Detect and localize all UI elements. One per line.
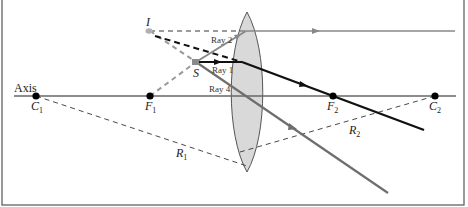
image-label: I <box>145 15 151 29</box>
c2-label: C2 <box>429 99 441 115</box>
r1-label: R1 <box>175 146 187 162</box>
ray4-label: Ray 4 <box>209 84 231 94</box>
ray1-label: Ray 1 <box>212 65 233 75</box>
f1-label: F1 <box>144 99 156 115</box>
r2-label: R2 <box>348 123 360 139</box>
lens-diagram: Axis C1 F1 F2 C2 R1 R2 I S Ray 2 Ray 1 R… <box>0 0 468 207</box>
diagram-frame: Axis C1 F1 F2 C2 R1 R2 I S Ray 2 Ray 1 R… <box>0 0 468 207</box>
image-point <box>146 28 153 34</box>
axis-label: Axis <box>14 81 37 95</box>
c1-label: C1 <box>31 99 43 115</box>
radius-r1-line <box>36 96 247 166</box>
ray4-arrow-icon <box>288 123 297 130</box>
source-label: S <box>193 66 199 80</box>
focal-to-source-dash <box>150 62 196 96</box>
ray2-arrow-icon <box>312 28 320 34</box>
f2-label: F2 <box>326 99 338 115</box>
ray2-label: Ray 2 <box>211 35 232 45</box>
ray1-refracted-arrow-icon <box>299 81 308 87</box>
source-point <box>192 59 199 65</box>
